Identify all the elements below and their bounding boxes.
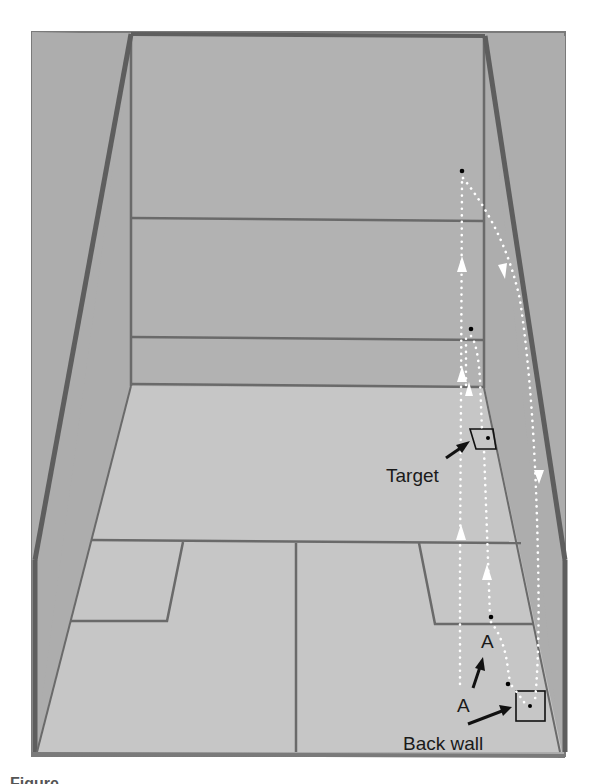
label-a-lower: A (457, 695, 470, 716)
front-wall (131, 34, 485, 388)
court-diagram: Target Back wall A A (0, 0, 592, 784)
figure-caption-cropped: Figure (10, 770, 59, 784)
label-target: Target (386, 465, 440, 486)
back-wall-edge (32, 754, 565, 756)
front-wall-top-edge (131, 34, 485, 36)
ball-a-upper (489, 615, 494, 620)
ball-mid (469, 327, 474, 332)
back-wall-ball (528, 704, 532, 708)
ball-lower (506, 682, 511, 687)
label-a-upper: A (481, 631, 494, 652)
ball-high (460, 169, 465, 174)
label-back-wall: Back wall (403, 733, 483, 754)
target-ball (486, 436, 490, 440)
